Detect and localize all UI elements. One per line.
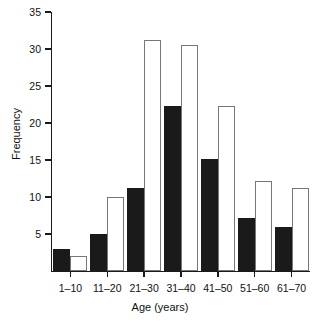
bar-black-41-50 bbox=[201, 159, 218, 271]
y-axis-tick bbox=[45, 11, 51, 12]
y-axis-tick bbox=[45, 196, 51, 197]
y-axis-tick bbox=[45, 233, 51, 234]
bar-white-61-70 bbox=[292, 188, 309, 271]
y-axis-tick bbox=[45, 48, 51, 49]
x-axis-title: Age (years) bbox=[0, 301, 320, 313]
bars-container bbox=[52, 12, 310, 271]
x-axis-tick bbox=[143, 271, 144, 277]
bar-black-11-20 bbox=[90, 234, 107, 271]
x-axis-tick bbox=[254, 271, 255, 277]
x-axis-tick bbox=[107, 271, 108, 277]
y-axis-tick bbox=[45, 85, 51, 86]
bar-black-21-30 bbox=[127, 188, 144, 271]
x-axis-tick bbox=[217, 271, 218, 277]
bar-black-61-70 bbox=[275, 227, 292, 271]
y-axis-tick-label: 5 bbox=[1, 229, 41, 240]
y-axis-tick-label: 25 bbox=[1, 81, 41, 92]
bar-white-1-10 bbox=[70, 256, 87, 271]
bar-white-21-30 bbox=[144, 40, 161, 271]
y-axis-tick bbox=[45, 159, 51, 160]
y-axis-tick-label: 30 bbox=[1, 44, 41, 55]
bar-white-31-40 bbox=[181, 45, 198, 271]
y-axis-tick bbox=[45, 122, 51, 123]
x-axis-tick bbox=[291, 271, 292, 277]
y-axis-tick-label: 10 bbox=[1, 192, 41, 203]
bar-black-31-40 bbox=[164, 106, 181, 271]
histogram-figure: Frequency 5101520253035 1–1011–2021–3031… bbox=[0, 0, 320, 325]
bar-white-11-20 bbox=[107, 197, 124, 271]
x-axis-tick-label: 61–70 bbox=[262, 283, 320, 295]
y-axis-title: Frequency bbox=[10, 84, 22, 184]
x-axis-tick bbox=[180, 271, 181, 277]
bar-black-1-10 bbox=[53, 249, 70, 271]
y-axis-tick-label: 15 bbox=[1, 155, 41, 166]
bar-white-41-50 bbox=[218, 106, 235, 271]
x-axis-tick bbox=[70, 271, 71, 277]
bar-black-51-60 bbox=[238, 218, 255, 271]
bar-white-51-60 bbox=[255, 181, 272, 271]
y-axis-tick-label: 20 bbox=[1, 118, 41, 129]
y-axis-tick-label: 35 bbox=[1, 7, 41, 18]
